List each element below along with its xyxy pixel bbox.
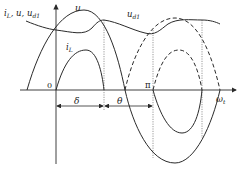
origin-label: 0	[47, 81, 52, 90]
curve-iL	[56, 50, 104, 90]
curve-iL-dashed	[153, 50, 202, 90]
y-axis-label: iL, u, ud1	[4, 8, 40, 19]
pi-label: π	[145, 80, 151, 90]
curve-ud1	[26, 20, 220, 34]
curve-iL-label: iL	[66, 42, 73, 53]
x-axis-label: ωt	[216, 94, 226, 105]
theta-label: θ	[117, 96, 123, 106]
curve-u-dashed	[125, 18, 220, 90]
curve-iL-negative	[153, 90, 202, 133]
waveform-diagram: iL, u, ud1 u ud1 iL 0 π ωt δ θ	[0, 0, 240, 170]
delta-label: δ	[74, 96, 79, 106]
curve-u-label: u	[75, 3, 81, 13]
curve-ud1-label: ud1	[127, 9, 140, 20]
